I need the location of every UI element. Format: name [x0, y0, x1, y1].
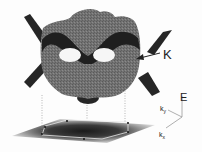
- k-point-label: K: [163, 48, 172, 61]
- kx-axis-label: kx: [159, 131, 165, 140]
- energy-axis-label: E: [180, 92, 187, 103]
- ky-axis-label: ky: [160, 105, 166, 114]
- band-structure-figure: K E ky kx: [0, 0, 202, 152]
- band-surface: [41, 9, 141, 99]
- brillouin-zone-plane: [12, 119, 155, 143]
- band-structure-diagram: [0, 0, 202, 152]
- kx-axis-subscript: x: [163, 134, 166, 140]
- ky-axis-subscript: y: [164, 108, 167, 114]
